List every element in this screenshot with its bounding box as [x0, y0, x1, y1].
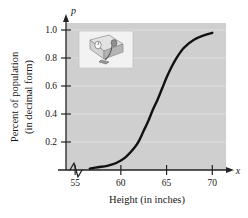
- y-axis-tick-label: 0.2: [45, 137, 57, 147]
- x-axis-tick-label: 60: [116, 178, 126, 188]
- x-axis-tick-labels: 55606570: [70, 178, 217, 188]
- y-axis-tick-label: 0.8: [45, 53, 57, 63]
- y-axis-variable-label: p: [70, 5, 76, 16]
- x-axis-title: Height (in inches): [109, 194, 185, 206]
- x-axis-tick-label: 55: [70, 178, 80, 188]
- y-axis-title-line-2: (in decimal form): [23, 59, 35, 134]
- y-axis-title: Percent of population (in decimal form): [9, 51, 35, 142]
- y-axis-tick-labels: 0.20.40.60.81.0: [45, 25, 57, 147]
- y-axis-tick-label: 1.0: [45, 25, 57, 35]
- logistic-growth-figure: 0.20.40.60.81.0 55606570 p x Height (in …: [0, 0, 248, 218]
- x-axis-tick-label: 65: [162, 178, 172, 188]
- bathroom-scale-illustration: [79, 31, 133, 68]
- y-axis-title-line-1: Percent of population: [9, 51, 20, 142]
- x-axis-variable-label: x: [235, 165, 241, 176]
- x-axis-tick-label: 70: [208, 178, 218, 188]
- y-axis-tick-label: 0.4: [45, 109, 57, 119]
- chart-canvas: 0.20.40.60.81.0 55606570 p x Height (in …: [0, 0, 248, 218]
- y-axis-tick-label: 0.6: [45, 81, 57, 91]
